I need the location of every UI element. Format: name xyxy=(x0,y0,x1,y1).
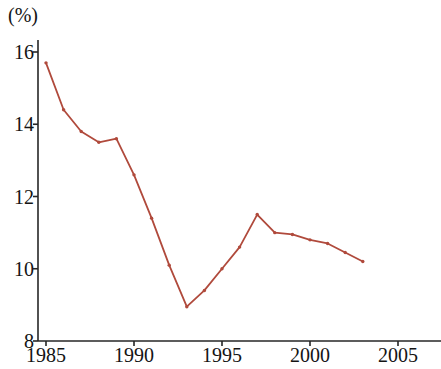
data-point xyxy=(97,141,100,144)
data-point xyxy=(220,267,223,270)
data-point xyxy=(308,238,311,241)
data-point xyxy=(326,242,329,245)
data-point xyxy=(291,233,294,236)
axes xyxy=(38,40,441,341)
data-point xyxy=(80,130,83,133)
data-point xyxy=(62,108,65,111)
data-point xyxy=(238,245,241,248)
axis-ticks xyxy=(33,52,398,346)
data-point xyxy=(185,305,188,308)
data-point xyxy=(132,173,135,176)
data-point xyxy=(168,263,171,266)
data-point xyxy=(256,213,259,216)
chart-container: (%) 810121416 19851990199520002005 xyxy=(0,0,441,369)
data-point xyxy=(273,231,276,234)
data-point xyxy=(44,61,47,64)
data-point xyxy=(203,289,206,292)
data-series-line xyxy=(46,63,363,307)
data-point xyxy=(361,260,364,263)
data-point xyxy=(344,251,347,254)
plot-area xyxy=(0,0,441,369)
data-point xyxy=(115,137,118,140)
data-point-markers xyxy=(44,61,364,308)
data-point xyxy=(150,216,153,219)
